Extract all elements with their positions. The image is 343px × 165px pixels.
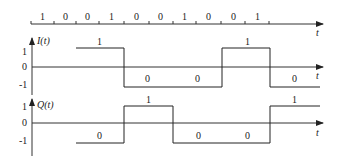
q-segment-label: 0 (245, 130, 250, 141)
bit-label: 0 (63, 11, 68, 22)
bit-label: 1 (40, 11, 45, 22)
bit-label: 1 (255, 11, 260, 22)
q-channel-label: Q(t) (37, 99, 54, 111)
bit-label: 0 (134, 11, 139, 22)
bit-label: 1 (109, 11, 114, 22)
i-ytick-0: 0 (22, 61, 27, 72)
q-ytick-neg1: -1 (19, 135, 27, 146)
i-segment-label: 0 (292, 73, 297, 84)
bit-label: 0 (231, 11, 236, 22)
q-ytick-0: 0 (22, 117, 27, 128)
i-segment-label: 1 (97, 36, 102, 47)
q-channel-plot: Q(t) 1 0 -1 t 0 1 0 0 1 (19, 94, 323, 156)
q-t-label: t (316, 127, 319, 138)
q-segment-label: 1 (146, 94, 151, 105)
qpsk-diagram: 1 0 0 1 0 0 1 0 0 1 t I(t) 1 0 -1 t 1 0 … (0, 0, 343, 165)
i-ytick-1: 1 (22, 46, 27, 57)
i-segment-label: 1 (245, 36, 250, 47)
i-t-label: t (316, 70, 319, 81)
i-channel-plot: I(t) 1 0 -1 t 1 0 0 1 0 (19, 35, 323, 95)
q-segment-label: 1 (292, 94, 297, 105)
bit-stream-axis: 1 0 0 1 0 0 1 0 0 1 t (31, 11, 323, 38)
bit-label: 1 (182, 11, 187, 22)
q-segment-label: 0 (97, 130, 102, 141)
i-segment-label: 0 (195, 73, 200, 84)
i-channel-label: I(t) (36, 35, 50, 47)
q-ytick-1: 1 (22, 101, 27, 112)
bit-label: 0 (206, 11, 211, 22)
bit-label: 0 (158, 11, 163, 22)
bit-axis-t-label: t (316, 27, 319, 38)
i-segment-label: 0 (145, 73, 150, 84)
i-ytick-neg1: -1 (19, 79, 27, 90)
q-segment-label: 0 (196, 130, 201, 141)
bit-label: 0 (85, 11, 90, 22)
